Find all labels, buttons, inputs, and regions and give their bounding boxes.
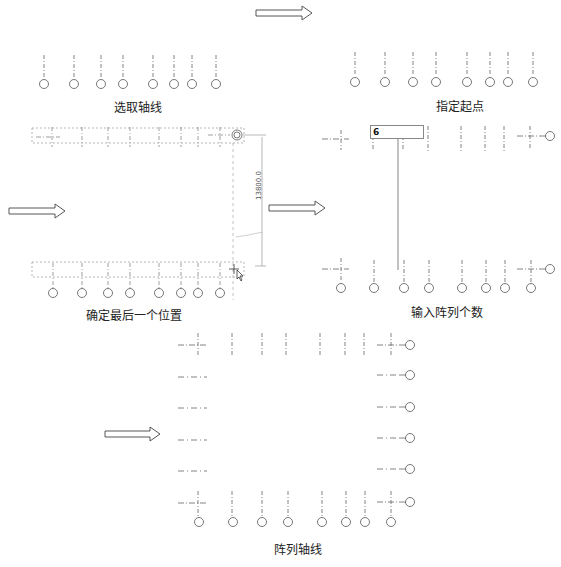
caption-array-grid: 阵列轴线 (274, 540, 322, 557)
dimension-label: 13800.0 (255, 171, 263, 200)
caption-enter-array-count: 输入阵列个数 (411, 303, 483, 320)
caption-specify-start: 指定起点 (436, 97, 484, 114)
right-arrow-icon (269, 201, 325, 215)
array-count-input[interactable]: 6 (370, 125, 424, 139)
panel-determine-last-position (32, 127, 266, 300)
panel-select-grid (40, 55, 221, 89)
drawing-canvas (0, 0, 561, 567)
panel-array-grid (178, 333, 415, 527)
caption-determine-last-position: 确定最后一个位置 (86, 306, 182, 323)
right-arrow-icon (256, 6, 312, 20)
panel-enter-array-count (322, 126, 555, 293)
right-arrow-icon (105, 427, 160, 441)
panel-specify-start (351, 52, 538, 87)
right-arrow-icon (9, 204, 65, 218)
caption-select-grid: 选取轴线 (114, 98, 162, 115)
move-cursor-icon (229, 264, 243, 281)
